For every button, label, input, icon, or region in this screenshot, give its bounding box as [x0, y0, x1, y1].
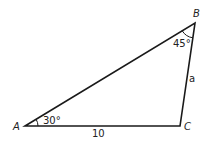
- side-label-bc: a: [189, 73, 195, 84]
- vertex-label-c: C: [184, 121, 191, 132]
- side-label-ac: 10: [92, 128, 105, 139]
- angle-label-a: 30°: [43, 115, 61, 126]
- vertex-label-b: B: [193, 8, 200, 19]
- vertex-label-a: A: [12, 121, 20, 132]
- angle-label-b: 45°: [173, 38, 191, 49]
- angle-arc-b: [182, 31, 193, 38]
- triangle-diagram: A B C 30° 45° 10 a: [0, 0, 205, 151]
- triangle-abc: [25, 23, 195, 126]
- angle-arc-a: [36, 119, 38, 126]
